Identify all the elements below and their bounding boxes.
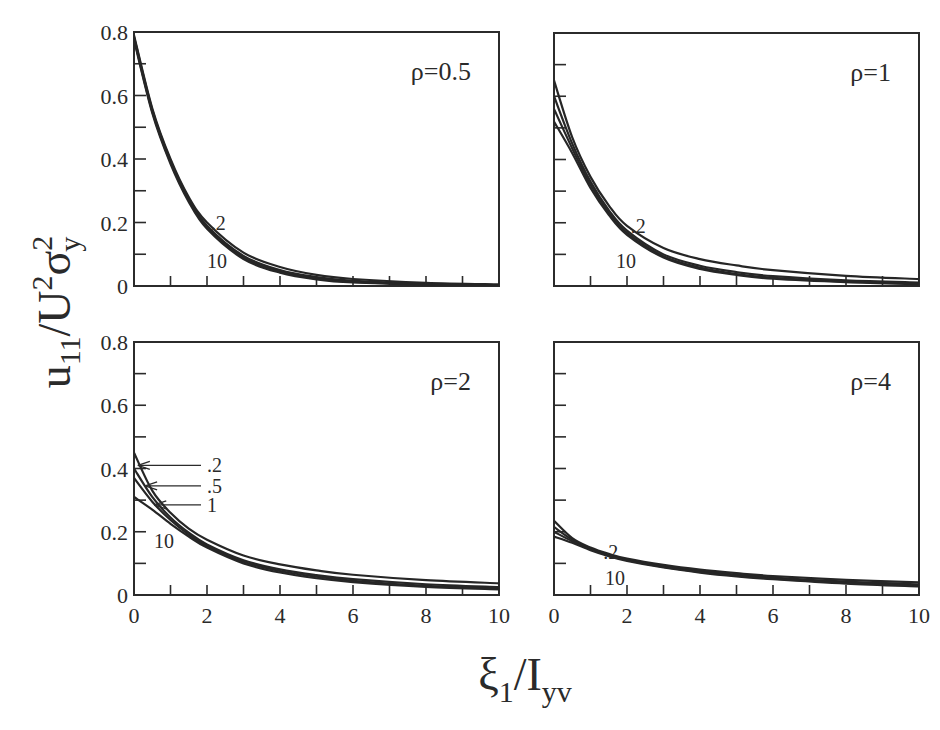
x-axis-title-sub1: 1: [499, 675, 514, 708]
curve-annotation: 10: [616, 250, 636, 272]
series-line-p2: [554, 80, 919, 279]
curve-annotation: 10: [154, 530, 174, 552]
x-tick-label: 0: [129, 603, 140, 628]
x-tick-label: 8: [421, 603, 432, 628]
y-tick-label: 0.4: [101, 147, 129, 172]
x-tick-label: 0: [549, 603, 560, 628]
y-axis-title-slash: /U: [29, 290, 80, 336]
series-line-p5: [554, 96, 919, 282]
y-tick-label: 0.2: [101, 211, 129, 236]
curve-annotation: 10: [605, 567, 625, 589]
y-axis-title: u11/U2σ2y: [25, 236, 86, 389]
panel-rho-2: 024681000.20.40.60.8ρ=2.2.5110: [101, 330, 511, 628]
curve-annotation: 1: [207, 494, 217, 516]
curve-annotation: .2: [631, 215, 646, 237]
x-tick-label: 10: [488, 603, 510, 628]
y-axis-title-sub2: y: [53, 237, 86, 252]
y-tick-label: 0: [117, 274, 128, 299]
series-line-p2: [134, 453, 499, 584]
svg-text:ξ1/Iyv: ξ1/Iyv: [478, 649, 572, 708]
curve-annotation: 10: [207, 250, 227, 272]
panel-label: ρ=4: [850, 367, 891, 396]
curve-annotation: .2: [207, 454, 222, 476]
curve-annotation: .2: [211, 212, 226, 234]
x-axis-title-sub2: yv: [542, 675, 572, 708]
y-tick-label: 0.4: [101, 457, 129, 482]
x-tick-label: 2: [622, 603, 633, 628]
y-tick-label: 0.2: [101, 520, 129, 545]
series-line-10: [554, 122, 919, 285]
x-tick-label: 10: [908, 603, 930, 628]
y-axis-title-sub1: 11: [53, 336, 86, 365]
y-axis-title-main: u: [29, 365, 80, 388]
x-axis-title-main: ξ: [478, 649, 499, 700]
svg-text:u11/U2σ2y: u11/U2σ2y: [25, 236, 86, 389]
y-tick-label: 0.8: [101, 330, 129, 355]
y-axis-title-sup1: 2: [25, 275, 58, 290]
x-tick-label: 4: [695, 603, 706, 628]
x-tick-label: 6: [768, 603, 779, 628]
x-tick-label: 8: [841, 603, 852, 628]
panel-label: ρ=1: [850, 58, 891, 87]
series-line-1: [554, 109, 919, 284]
panel-label: ρ=2: [430, 367, 471, 396]
y-tick-label: 0.8: [101, 20, 129, 45]
x-axis-title-slash: /I: [514, 649, 542, 700]
panel-rho-4: 0246810ρ=4.210: [549, 342, 931, 628]
x-tick-label: 6: [348, 603, 359, 628]
panel-label: ρ=0.5: [411, 57, 471, 86]
curve-annotation: .2: [603, 541, 618, 563]
x-axis-title: ξ1/Iyv: [478, 649, 572, 708]
y-axis-title-sigma: σ: [29, 250, 80, 275]
y-tick-label: 0: [117, 583, 128, 608]
x-tick-label: 4: [275, 603, 286, 628]
y-tick-label: 0.6: [101, 393, 129, 418]
panel-rho-0.5: 00.20.40.60.8ρ=0.5.210: [101, 20, 500, 299]
y-tick-label: 0.6: [101, 84, 129, 109]
panel-rho-1: ρ=1.210: [554, 33, 919, 286]
x-tick-label: 2: [202, 603, 213, 628]
chart-figure: 00.20.40.60.8ρ=0.5.210ρ=1.210024681000.2…: [0, 0, 940, 730]
